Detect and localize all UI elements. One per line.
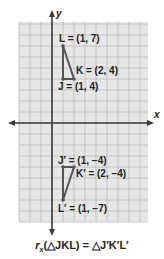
y-axis-top-arrow-icon (49, 10, 55, 17)
y-axis-bottom-arrow-icon (49, 229, 55, 236)
y-axis-label: y (55, 8, 62, 19)
label-K-prime: K′ = (2, −4) (76, 168, 126, 179)
label-J-prime: J′ = (1, −4) (58, 155, 107, 166)
reflection-caption: rx(△JKL) = △J′K′L′ (0, 239, 164, 253)
x-axis-left-arrow-icon (8, 120, 15, 126)
caption-equals: = (80, 239, 93, 251)
caption-arg: (△JKL) (43, 239, 79, 251)
vertex-point-L (61, 44, 65, 48)
label-K: K = (2, 4) (76, 65, 118, 76)
x-axis-label: x (153, 109, 160, 120)
vertex-point-L-prime (61, 198, 65, 202)
label-L: L = (1, 7) (59, 33, 100, 44)
label-J: J = (1, 4) (58, 81, 98, 92)
label-L-prime: L′ = (1, −7) (58, 203, 107, 214)
caption-result: △J′K′L′ (92, 239, 129, 251)
grid (19, 22, 148, 222)
x-axis-right-arrow-icon (147, 120, 154, 126)
coordinate-plane: y x L = (1, 7) K = (2, 4) J = (1, 4) J′ … (0, 0, 164, 259)
